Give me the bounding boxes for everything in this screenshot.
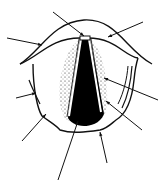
larynx-diagram	[0, 0, 168, 194]
anterior-commissure	[80, 36, 90, 40]
arrow-6-pointer	[22, 114, 46, 141]
arrow-1-pointer	[53, 12, 84, 36]
arrow-5-pointer	[16, 92, 36, 98]
arrow-9-pointer	[106, 101, 142, 130]
arrow-8-pointer	[99, 132, 107, 163]
arrow-3-pointer	[7, 38, 42, 46]
arrowhead-icon	[108, 34, 112, 37]
